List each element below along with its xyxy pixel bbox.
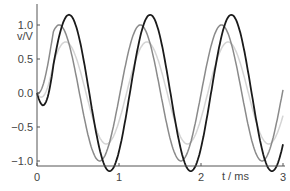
x-tick-label: 2: [198, 171, 204, 183]
x-axis-label: t / ms: [222, 170, 249, 182]
y-axis-label: v/V: [17, 30, 34, 42]
sine-chart: 1.00.50.0−0.5−1.0 0123 v/V t / ms: [0, 0, 290, 191]
y-tick-label: 0.0: [18, 87, 33, 99]
y-tick-label: −1.0: [11, 155, 33, 167]
plot-lines: [37, 15, 283, 171]
y-tick-label: −0.5: [11, 121, 33, 133]
series-gray: [37, 25, 283, 161]
y-tick-label: 0.5: [18, 53, 33, 65]
x-tick-label: 0: [34, 171, 40, 183]
x-tick-label: 1: [116, 171, 122, 183]
x-tick-label: 3: [280, 171, 286, 183]
